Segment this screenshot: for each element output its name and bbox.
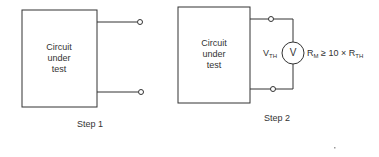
relation-text: ≥ 10 × R: [321, 48, 355, 58]
vth-sub: TH: [269, 53, 277, 59]
vth-label: VTH: [263, 48, 277, 59]
label-line: Circuit: [179, 38, 249, 49]
step2-box-label: Circuit under test: [179, 38, 249, 71]
step1-box-label: Circuit under test: [24, 42, 94, 75]
step2-bottom-terminal-icon: [271, 87, 276, 92]
label-line: test: [24, 64, 94, 75]
rm-relation-label: RM ≥ 10 × RTH: [307, 48, 363, 59]
stray-dot: [334, 147, 336, 149]
label-line: under: [179, 49, 249, 60]
diagram-canvas: [0, 0, 379, 157]
step2-top-terminal-icon: [269, 17, 274, 22]
label-line: Circuit: [24, 42, 94, 53]
step2-caption: Step 2: [257, 113, 297, 124]
voltmeter-symbol: V: [287, 47, 299, 58]
rth-sub: TH: [355, 53, 363, 59]
label-line: test: [179, 60, 249, 71]
step1-bottom-terminal-icon: [139, 90, 144, 95]
label-line: under: [24, 53, 94, 64]
rm-sub: M: [314, 53, 319, 59]
step1-caption: Step 1: [70, 119, 110, 130]
step1-top-terminal-icon: [138, 20, 143, 25]
